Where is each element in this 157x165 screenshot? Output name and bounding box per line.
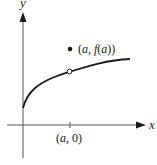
y-axis-label: y <box>18 0 26 10</box>
function-curve <box>23 59 130 108</box>
tick-label: (a, 0) <box>56 131 82 145</box>
function-diagram: y x (a, 0) (a, f(a)) <box>0 0 157 165</box>
x-axis-arrow-icon <box>136 122 146 129</box>
x-axis-label: x <box>148 117 155 132</box>
y-axis-arrow-icon <box>20 12 27 22</box>
open-point <box>67 69 72 74</box>
filled-point <box>68 47 73 52</box>
filled-point-label: (a, f(a)) <box>78 42 115 56</box>
